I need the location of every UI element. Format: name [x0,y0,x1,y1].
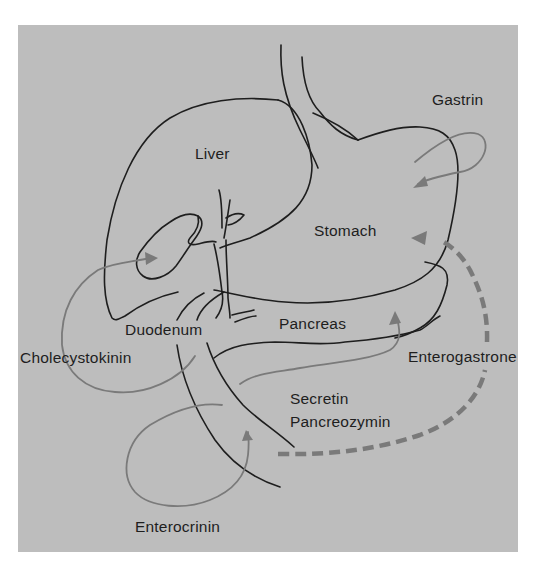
liver-lower-edge [220,100,312,248]
stomach-pylorus [395,262,448,338]
cholecystokinin-arrowhead [145,252,158,265]
intestine-right-wall [207,343,294,447]
hepatic-duct-left-branch [219,190,230,238]
esophagus-left-wall [281,45,318,168]
secretin-pancreozymin-arrowhead [389,311,401,325]
label-stomach: Stomach [314,223,377,239]
gastrin-arrowhead [413,176,428,188]
enterogastrone-arrowhead [411,231,427,245]
stomach-cardia [313,113,358,140]
label-secretin: Secretin [290,391,348,407]
hepatic-duct-right-branch [226,214,244,225]
label-pancreas: Pancreas [279,316,346,332]
label-enterocrinin: Enterocrinin [135,519,220,535]
enterocrinin-pathway [127,404,249,506]
esophagus-right-wall [302,57,358,140]
liver-outline [104,99,278,320]
label-pancreozymin: Pancreozymin [290,414,391,430]
intestine-left-wall [177,345,280,487]
gi-hormone-diagram [0,0,558,568]
gallbladder [137,214,202,279]
label-cholecystokinin: Cholecystokinin [20,350,132,366]
stomach-outline [214,127,458,303]
cystic-duct-upper [188,216,216,245]
common-bile-duct-left [214,244,223,318]
label-duodenum: Duodenum [125,322,202,338]
label-gastrin: Gastrin [432,92,483,108]
common-bile-duct-right [226,240,230,318]
label-enterogastrone: Enterogastrone [408,349,517,365]
label-liver: Liver [195,146,230,162]
pancreatic-duct [232,310,256,322]
